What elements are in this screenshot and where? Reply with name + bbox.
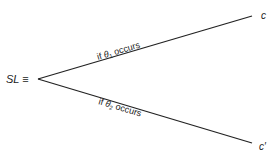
branch-line-upper bbox=[38, 16, 252, 79]
outcome-lower: c′ bbox=[259, 141, 267, 152]
svg-text:if θ1 occurs: if θ1 occurs bbox=[96, 40, 142, 63]
origin-label: SL ≡ bbox=[6, 73, 29, 85]
condition-suffix: occurs bbox=[110, 40, 141, 58]
svg-text:if θ2 occurs: if θ2 occurs bbox=[97, 96, 143, 119]
condition-suffix: occurs bbox=[112, 101, 143, 119]
decision-tree-diagram: SL ≡ if θ1 occurs if θ2 occurs c c′ bbox=[0, 0, 277, 158]
outcome-upper: c bbox=[261, 10, 266, 21]
diagram-svg: SL ≡ if θ1 occurs if θ2 occurs c c′ bbox=[0, 0, 277, 158]
branch-line-lower bbox=[38, 79, 252, 143]
branch-condition-lower: if θ2 occurs bbox=[97, 96, 143, 119]
branch-condition-upper: if θ1 occurs bbox=[96, 40, 142, 63]
